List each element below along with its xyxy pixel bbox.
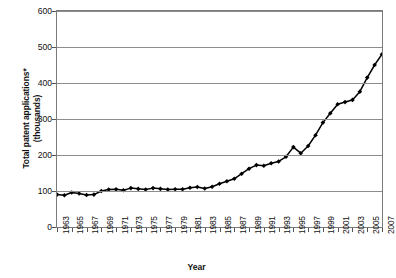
x-axis-tick-mark [190, 228, 191, 232]
data-point-marker [84, 193, 89, 198]
x-axis-tick-mark [175, 228, 176, 232]
x-axis-tick-label: 1983 [208, 216, 218, 234]
x-axis-tick-mark [338, 228, 339, 232]
data-point-marker [57, 192, 59, 197]
x-axis-tick-mark [57, 228, 58, 232]
x-axis-tick-mark [160, 228, 161, 232]
y-axis-tick-label: 400 [22, 78, 52, 88]
data-point-marker [195, 185, 200, 190]
x-axis-tick-mark [323, 228, 324, 232]
gridline [57, 119, 382, 120]
x-axis-tick-mark [72, 228, 73, 232]
x-axis-tick-mark [234, 228, 235, 232]
y-axis-tick-label: 600 [22, 6, 52, 16]
x-axis-tick-mark [293, 228, 294, 232]
x-axis-tick-mark [308, 228, 309, 232]
y-axis-tick-label: 200 [22, 150, 52, 160]
y-axis-tick-label: 0 [22, 222, 52, 232]
x-axis-tick-label: 2001 [341, 216, 351, 234]
x-axis-tick-label: 2005 [371, 216, 381, 234]
x-axis-title: Year [0, 262, 393, 272]
data-line [57, 54, 382, 195]
x-axis-tick-mark [264, 228, 265, 232]
x-axis-tick-label: 1997 [312, 216, 322, 234]
gridline [57, 155, 382, 156]
data-point-marker [343, 100, 348, 105]
x-axis-tick-label: 1977 [164, 216, 174, 234]
y-axis-tick-label: 300 [22, 114, 52, 124]
x-axis-tick-label: 1979 [179, 216, 189, 234]
x-axis-tick-label: 1989 [253, 216, 263, 234]
gridline [57, 47, 382, 48]
y-axis-tick-label: 500 [22, 42, 52, 52]
x-axis-tick-label: 1993 [282, 216, 292, 234]
gridline [57, 83, 382, 84]
data-point-marker [129, 186, 134, 191]
data-point-marker [217, 182, 222, 187]
x-axis-tick-mark [131, 228, 132, 232]
x-axis-tick-mark [279, 228, 280, 232]
x-axis-tick-mark [205, 228, 206, 232]
x-axis-tick-label: 1995 [297, 216, 307, 234]
x-axis-tick-mark [87, 228, 88, 232]
x-axis-tick-label: 1973 [134, 216, 144, 234]
y-axis-tick-label: 100 [22, 186, 52, 196]
x-axis-tick-label: 2007 [386, 216, 396, 234]
x-axis-tick-label: 1969 [105, 216, 115, 234]
data-point-marker [151, 186, 156, 191]
x-axis-tick-label: 1985 [223, 216, 233, 234]
gridline [57, 191, 382, 192]
x-axis-tick-label: 1991 [267, 216, 277, 234]
x-axis-tick-mark [101, 228, 102, 232]
x-axis-tick-label: 1999 [326, 216, 336, 234]
data-point-marker [225, 179, 230, 184]
plot-area [56, 10, 383, 228]
x-axis-tick-label: 2003 [356, 216, 366, 234]
data-point-marker [62, 193, 67, 198]
x-axis-tick-label: 1971 [120, 216, 130, 234]
x-axis-tick-mark [249, 228, 250, 232]
x-axis-tick-mark [382, 228, 383, 232]
x-axis-tick-label: 1981 [193, 216, 203, 234]
x-axis-tick-label: 1963 [61, 216, 71, 234]
x-axis-tick-mark [352, 228, 353, 232]
x-axis-tick-mark [367, 228, 368, 232]
x-axis-tick-mark [146, 228, 147, 232]
gridline [57, 11, 382, 12]
data-point-marker [262, 164, 267, 169]
x-axis-tick-label: 1987 [238, 216, 248, 234]
data-point-marker [210, 184, 215, 189]
x-axis-tick-label: 1965 [75, 216, 85, 234]
x-axis-tick-mark [220, 228, 221, 232]
data-point-marker [188, 185, 193, 190]
x-axis-tick-label: 1967 [90, 216, 100, 234]
x-axis-tick-label: 1975 [149, 216, 159, 234]
data-point-marker [269, 161, 274, 166]
x-axis-tick-mark [116, 228, 117, 232]
